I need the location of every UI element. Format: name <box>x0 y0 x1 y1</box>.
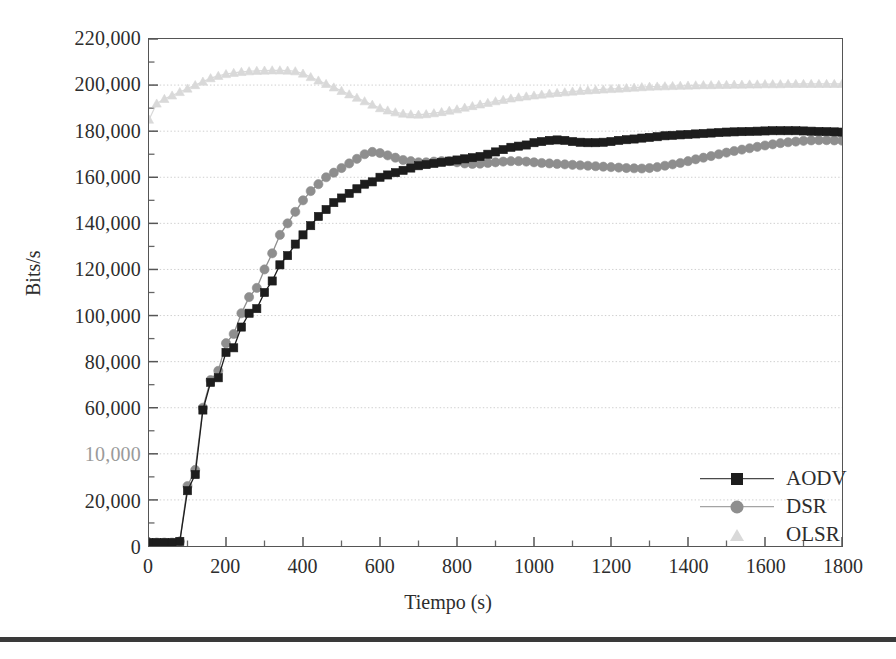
x-tick-label: 1600 <box>746 556 786 576</box>
legend-label: AODV <box>786 468 847 489</box>
y-tick-label: 180,000 <box>75 121 141 141</box>
x-tick-label: 1800 <box>823 556 863 576</box>
y-axis-title: Bits/s <box>22 250 45 296</box>
x-tick-label: 800 <box>442 556 472 576</box>
y-tick-label: 60,000 <box>85 398 141 418</box>
y-tick-label: 0 <box>131 537 141 557</box>
y-axis-tick-labels: 020,00010,00060,00080,000100,000120,0001… <box>0 0 141 659</box>
y-tick-label: 20,000 <box>85 491 141 511</box>
figure-container: 020,00010,00060,00080,000100,000120,0001… <box>0 0 896 659</box>
legend-key <box>700 497 774 517</box>
chart-legend: AODVDSROLSR <box>700 466 847 547</box>
legend-label: DSR <box>786 496 827 517</box>
x-tick-label: 200 <box>210 556 240 576</box>
x-tick-label: 600 <box>365 556 395 576</box>
x-axis-title: Tiempo (s) <box>0 591 896 614</box>
y-tick-label: 100,000 <box>75 306 141 326</box>
legend-item-aodv: AODV <box>700 466 847 491</box>
page-bottom-rule <box>0 637 896 642</box>
y-tick-label: 200,000 <box>75 74 141 94</box>
y-tick-label: 80,000 <box>85 352 141 372</box>
legend-key <box>700 469 774 489</box>
x-tick-label: 1400 <box>669 556 709 576</box>
y-tick-label: 160,000 <box>75 167 141 187</box>
y-tick-label: 220,000 <box>75 28 141 48</box>
x-tick-label: 1000 <box>514 556 554 576</box>
legend-item-olsr: OLSR <box>700 522 847 547</box>
y-tick-label: 140,000 <box>75 213 141 233</box>
legend-item-dsr: DSR <box>700 494 847 519</box>
circle-marker <box>731 500 744 513</box>
triangle-marker <box>730 529 744 541</box>
legend-label: OLSR <box>786 524 840 545</box>
series-olsr <box>149 66 842 123</box>
x-tick-label: 1200 <box>591 556 631 576</box>
y-tick-label: 10,000 <box>85 444 141 464</box>
square-marker <box>731 473 743 485</box>
x-tick-label: 400 <box>287 556 317 576</box>
y-tick-label: 120,000 <box>75 259 141 279</box>
legend-key <box>700 525 774 545</box>
x-tick-label: 0 <box>143 556 153 576</box>
